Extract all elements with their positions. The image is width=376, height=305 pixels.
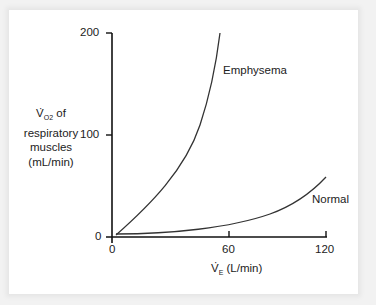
x-axis-label: V·E (L/min) — [211, 262, 262, 276]
emphysema-curve — [116, 33, 220, 235]
y-axis-label-line3: muscles — [20, 140, 82, 155]
y-axis-label-line2: respiratory — [20, 126, 82, 141]
y-axis-label: V·O2 of respiratory muscles (mL/min) — [20, 106, 82, 169]
x-tick-label-60: 60 — [222, 243, 235, 255]
emphysema-label: Emphysema — [223, 64, 287, 76]
y-tick-label-0: 0 — [95, 230, 101, 242]
y-axis-label-line1: V·O2 of — [20, 106, 82, 126]
y-tick-label-200: 200 — [80, 26, 99, 38]
y-axis-label-line4: (mL/min) — [20, 155, 82, 170]
x-tick-label-120: 120 — [315, 243, 334, 255]
normal-label: Normal — [312, 193, 349, 205]
y-tick-label-100: 100 — [80, 128, 99, 140]
x-tick-label-0: 0 — [109, 243, 115, 255]
